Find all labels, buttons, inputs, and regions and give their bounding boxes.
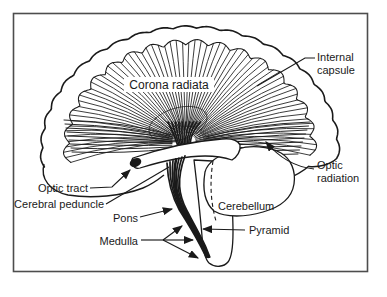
label-cerebellum: Cerebellum	[218, 200, 274, 212]
label-corona-radiata: Corona radiata	[129, 78, 209, 92]
label-medulla: Medulla	[99, 235, 138, 247]
label-optic-tract: Optic tract	[38, 182, 88, 194]
label-pons: Pons	[113, 212, 139, 224]
label-internal-capsule-line2: capsule	[317, 64, 355, 76]
label-cerebral-peduncle: Cerebral peduncle	[14, 198, 104, 210]
label-internal-capsule-line1: Internal	[317, 51, 354, 63]
brain-fiber-diagram: Corona radiata Internal capsule Optic tr…	[0, 0, 387, 297]
label-optic-radiation-line1: Optic	[317, 159, 343, 171]
label-pyramid: Pyramid	[249, 224, 289, 236]
figure-panel: Corona radiata Internal capsule Optic tr…	[0, 0, 387, 297]
label-optic-radiation-line2: radiation	[317, 172, 359, 184]
